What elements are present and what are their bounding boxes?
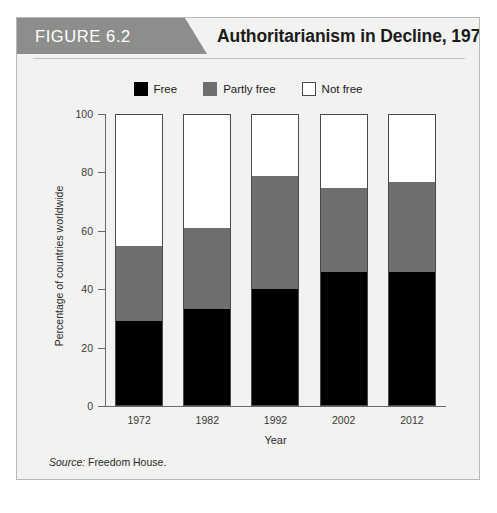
bar-column[interactable] (183, 114, 231, 406)
y-axis-tick (98, 406, 105, 407)
x-axis-tick-label: 1972 (109, 414, 169, 426)
bar-stack[interactable] (320, 114, 368, 406)
bar-group (105, 114, 446, 406)
bar-segment-not-free[interactable] (321, 115, 367, 188)
source-label: Source: (49, 456, 85, 468)
bar-stack[interactable] (251, 114, 299, 406)
y-axis-tick-label: 20 (37, 342, 93, 354)
y-axis-tick-label: 0 (37, 400, 93, 412)
bar-column[interactable] (320, 114, 368, 406)
bar-segment-partly-free[interactable] (321, 188, 367, 272)
bar-segment-not-free[interactable] (184, 115, 230, 228)
bar-segment-not-free[interactable] (389, 115, 435, 182)
x-axis-line (105, 406, 446, 407)
bar-column[interactable] (388, 114, 436, 406)
bar-segment-free[interactable] (184, 309, 230, 405)
y-axis-tick-label: 40 (37, 283, 93, 295)
bar-segment-partly-free[interactable] (116, 246, 162, 321)
bar-segment-not-free[interactable] (116, 115, 162, 246)
bar-segment-free[interactable] (252, 289, 298, 405)
bar-segment-not-free[interactable] (252, 115, 298, 176)
bar-segment-partly-free[interactable] (389, 182, 435, 272)
bar-segment-partly-free[interactable] (184, 228, 230, 309)
y-axis-tick-label: 100 (37, 108, 93, 120)
bar-segment-free[interactable] (389, 272, 435, 405)
x-axis-tick-label: 1982 (177, 414, 237, 426)
y-axis-tick-label: 80 (37, 166, 93, 178)
y-axis-tick (98, 172, 105, 173)
y-axis-tick-label: 60 (37, 225, 93, 237)
bar-stack[interactable] (388, 114, 436, 406)
x-axis-tick-label: 2012 (382, 414, 442, 426)
bar-column[interactable] (251, 114, 299, 406)
x-axis-tick-label: 2002 (314, 414, 374, 426)
y-axis-tick (98, 348, 105, 349)
y-axis-tick (98, 231, 105, 232)
bar-segment-partly-free[interactable] (252, 176, 298, 289)
chart-plot: 020406080100 Percentage of countries wor… (17, 18, 480, 480)
bar-segment-free[interactable] (116, 321, 162, 405)
y-axis-tick (98, 114, 105, 115)
x-axis-title: Year (105, 434, 446, 446)
figure-card: FIGURE 6.2 Authoritarianism in Decline, … (16, 17, 480, 480)
bar-stack[interactable] (115, 114, 163, 406)
source-text: Freedom House. (88, 456, 166, 468)
y-axis-title: Percentage of countries worldwide (53, 176, 65, 356)
x-axis-tick-label: 1992 (246, 414, 306, 426)
y-axis-tick (98, 289, 105, 290)
bar-segment-free[interactable] (321, 272, 367, 405)
source-note: Source: Freedom House. (49, 456, 166, 468)
bar-column[interactable] (115, 114, 163, 406)
bar-stack[interactable] (183, 114, 231, 406)
